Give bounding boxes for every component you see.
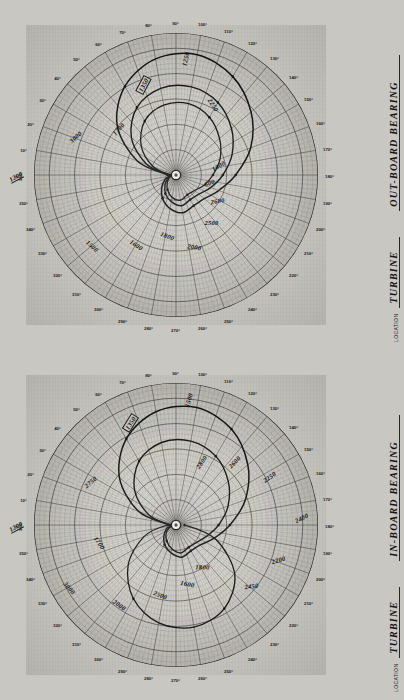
- degree-tick-120: 120°: [248, 391, 257, 396]
- degree-tick-180: 180°: [325, 524, 334, 529]
- degree-tick-20: 20°: [27, 473, 34, 478]
- degree-tick-310: 310°: [72, 642, 81, 647]
- degree-tick-330: 330°: [38, 251, 47, 256]
- degree-tick-220: 220°: [289, 273, 298, 278]
- degree-tick-190: 190°: [323, 551, 332, 556]
- degree-tick-90: 90°: [172, 21, 179, 26]
- degree-tick-140: 140°: [289, 425, 298, 430]
- degree-tick-250: 250°: [224, 669, 233, 674]
- degree-tick-220: 220°: [289, 623, 298, 628]
- degree-tick-180: 180°: [325, 174, 334, 179]
- degree-tick-270: 270°: [171, 678, 180, 683]
- degree-tick-350: 350°: [19, 201, 28, 206]
- degree-tick-110: 110°: [224, 29, 233, 34]
- degree-tick-130: 130°: [270, 56, 279, 61]
- degree-tick-30: 30°: [39, 448, 46, 453]
- degree-tick-290: 290°: [118, 669, 127, 674]
- degree-tick-230: 230°: [270, 642, 279, 647]
- bearing-value[interactable]: OUT-BOARD BEARING: [388, 55, 400, 210]
- rpm-annotation-2500: 2500: [204, 219, 218, 226]
- degree-tick-270: 270°: [171, 328, 180, 333]
- degree-tick-100: 100°: [198, 22, 207, 27]
- chart-header-in-board: LOCATION TURBINE IN-BOARD BEARING: [378, 350, 400, 700]
- degree-tick-290: 290°: [118, 319, 127, 324]
- degree-tick-190: 190°: [323, 201, 332, 206]
- degree-tick-200: 200°: [316, 227, 325, 232]
- degree-tick-350: 350°: [19, 551, 28, 556]
- degree-tick-60: 60°: [95, 392, 102, 397]
- degree-tick-70: 70°: [120, 30, 127, 35]
- degree-tick-210: 210°: [304, 251, 313, 256]
- degree-tick-340: 340°: [26, 577, 35, 582]
- degree-tick-170: 170°: [323, 497, 332, 502]
- location-caption: LOCATION: [393, 664, 400, 692]
- degree-tick-150: 150°: [304, 97, 313, 102]
- degree-tick-90: 90°: [172, 371, 179, 376]
- location-value[interactable]: TURBINE: [388, 587, 400, 658]
- degree-tick-40: 40°: [54, 426, 61, 431]
- degree-tick-40: 40°: [54, 76, 61, 81]
- degree-tick-200: 200°: [316, 577, 325, 582]
- degree-tick-300: 300°: [94, 657, 103, 662]
- polar-grid-svg: [26, 375, 326, 675]
- scanned-page: 0°360°10°20°30°40°50°60°70°80°90°100°110…: [0, 0, 404, 700]
- degree-tick-240: 240°: [248, 307, 257, 312]
- polar-plot-in-board: [26, 375, 326, 675]
- degree-tick-300: 300°: [94, 307, 103, 312]
- degree-tick-110: 110°: [224, 379, 233, 384]
- degree-tick-310: 310°: [72, 292, 81, 297]
- degree-tick-30: 30°: [39, 98, 46, 103]
- location-caption: LOCATION: [393, 314, 400, 342]
- rpm-annotation-1800: 1800: [195, 563, 209, 570]
- degree-tick-150: 150°: [304, 447, 313, 452]
- degree-tick-100: 100°: [198, 372, 207, 377]
- degree-tick-80: 80°: [145, 374, 152, 379]
- degree-tick-70: 70°: [120, 380, 127, 385]
- degree-tick-240: 240°: [248, 657, 257, 662]
- chart-out-board-bearing: 0°360°10°20°30°40°50°60°70°80°90°100°110…: [0, 0, 404, 350]
- chart-in-board-bearing: 0°360°10°20°30°40°50°60°70°80°90°100°110…: [0, 350, 404, 700]
- degree-tick-260: 260°: [198, 676, 207, 681]
- bearing-value[interactable]: IN-BOARD BEARING: [388, 415, 400, 561]
- location-value[interactable]: TURBINE: [388, 237, 400, 308]
- degree-tick-170: 170°: [323, 147, 332, 152]
- degree-tick-280: 280°: [144, 676, 153, 681]
- degree-tick-330: 330°: [38, 601, 47, 606]
- degree-tick-320: 320°: [53, 623, 62, 628]
- degree-tick-250: 250°: [224, 319, 233, 324]
- degree-tick-60: 60°: [95, 42, 102, 47]
- degree-tick-320: 320°: [53, 273, 62, 278]
- degree-tick-130: 130°: [270, 406, 279, 411]
- degree-tick-280: 280°: [144, 326, 153, 331]
- chart-header-out-board: LOCATION TURBINE OUT-BOARD BEARING: [378, 0, 400, 350]
- degree-tick-160: 160°: [316, 121, 325, 126]
- degree-tick-120: 120°: [248, 41, 257, 46]
- polar-grid-svg: [26, 25, 326, 325]
- degree-tick-210: 210°: [304, 601, 313, 606]
- degree-tick-50: 50°: [73, 407, 80, 412]
- degree-tick-50: 50°: [73, 57, 80, 62]
- polar-plot-out-board: [26, 25, 326, 325]
- degree-tick-260: 260°: [198, 326, 207, 331]
- degree-tick-20: 20°: [27, 123, 34, 128]
- degree-tick-140: 140°: [289, 75, 298, 80]
- degree-tick-80: 80°: [145, 24, 152, 29]
- degree-tick-230: 230°: [270, 292, 279, 297]
- degree-tick-160: 160°: [316, 471, 325, 476]
- degree-tick-10: 10°: [21, 148, 28, 153]
- degree-tick-340: 340°: [26, 227, 35, 232]
- degree-tick-10: 10°: [21, 498, 28, 503]
